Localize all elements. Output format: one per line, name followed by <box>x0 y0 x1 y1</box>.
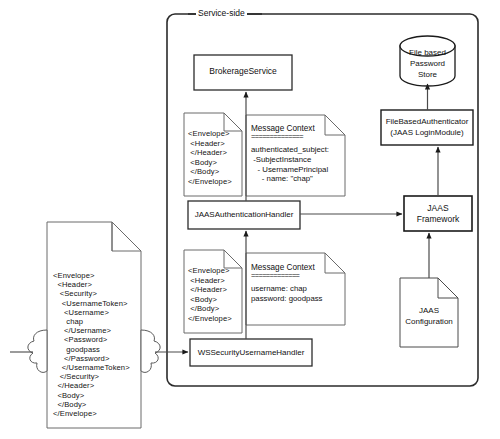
incoming-soap-line: goodpass <box>53 345 130 354</box>
message-context-top-rule: ============== <box>251 133 303 142</box>
stripped-soap-top-line: <Envelope> <box>188 129 232 139</box>
jaas-framework-label-line2: Framework <box>404 214 472 224</box>
password-store-label-line2: Password <box>400 59 455 68</box>
incoming-soap-document-text: <Envelope> <Header> <Security> <Username… <box>53 271 130 418</box>
incoming-soap-line: <Security> <box>53 289 130 298</box>
incoming-soap-line: </Password> <box>53 354 130 363</box>
incoming-soap-line: </Body> <box>53 400 130 409</box>
file-based-authenticator-label-line1: FileBasedAuthenticator <box>381 117 473 126</box>
message-context-top-line: authenticated_subject: <box>251 145 329 155</box>
message-context-top-body: authenticated_subject: -SubjectInstance … <box>251 145 329 184</box>
password-store-label-line1: File based <box>400 48 455 57</box>
incoming-soap-line: </Security> <box>53 372 130 381</box>
stripped-soap-bottom-line: </Header> <box>188 285 232 295</box>
incoming-soap-line: <Password> <box>53 335 130 344</box>
jaas-framework-label-line1: JAAS <box>404 203 472 213</box>
incoming-soap-line: <Username> <box>53 308 130 317</box>
jaas-configuration-label-line2: Configuration <box>398 317 460 326</box>
message-context-top-line: -SubjectInstance <box>251 155 329 165</box>
stripped-soap-top-line: </Header> <box>188 148 232 158</box>
architecture-diagram: Service-side BrokerageService JAASAuthen… <box>0 0 500 439</box>
incoming-soap-line: </Envelope> <box>53 409 130 418</box>
right-cloud-icon <box>141 330 160 372</box>
message-context-bottom-body: username: chappassword: goodpass <box>251 284 323 304</box>
jaas-authentication-handler-label: JAASAuthenticationHandler <box>188 210 300 219</box>
stripped-soap-top-line: <Body> <box>188 158 232 168</box>
wssecurity-username-handler-label: WSSecurityUsernameHandler <box>190 348 312 357</box>
incoming-soap-line: <UsernameToken> <box>53 299 130 308</box>
stripped-soap-bottom-line: <Body> <box>188 295 232 305</box>
brokerage-service-label: BrokerageService <box>194 66 292 76</box>
incoming-soap-line: </UsernameToken> <box>53 363 130 372</box>
incoming-soap-line: </Header> <box>53 381 130 390</box>
service-side-boundary-label: Service-side <box>196 8 247 18</box>
message-context-top-line: - name: "chap" <box>251 174 329 184</box>
stripped-soap-top-text: <Envelope> <Header> </Header> <Body> </B… <box>188 129 232 187</box>
stripped-soap-bottom-line: <Envelope> <box>188 266 232 276</box>
stripped-soap-bottom-line: <Header> <box>188 276 232 286</box>
password-store-label-line3: Store <box>400 70 455 79</box>
incoming-soap-line: <Envelope> <box>53 271 130 280</box>
incoming-soap-line: <Body> <box>53 391 130 400</box>
left-cloud-icon <box>28 330 47 372</box>
stripped-soap-top-line: </Body> <box>188 167 232 177</box>
incoming-soap-line: </Username> <box>53 326 130 335</box>
stripped-soap-top-line: <Header> <box>188 139 232 149</box>
stripped-soap-top-line: </Envelope> <box>188 177 232 187</box>
stripped-soap-bottom-line: </Body> <box>188 304 232 314</box>
message-context-bottom-line: password: goodpass <box>251 294 323 304</box>
message-context-top-line: - UsernamePrincipal <box>251 165 329 175</box>
message-context-bottom-rule: ============= <box>251 272 299 281</box>
incoming-soap-line: chap <box>53 317 130 326</box>
stripped-soap-bottom-text: <Envelope> <Header> </Header> <Body> </B… <box>188 266 232 324</box>
message-context-bottom-line: username: chap <box>251 284 323 294</box>
stripped-soap-bottom-line: </Envelope> <box>188 314 232 324</box>
file-based-authenticator-label-line2: (JAAS LoginModule) <box>381 128 473 137</box>
jaas-configuration-label-line1: JAAS <box>400 306 458 315</box>
incoming-soap-line: <Header> <box>53 280 130 289</box>
